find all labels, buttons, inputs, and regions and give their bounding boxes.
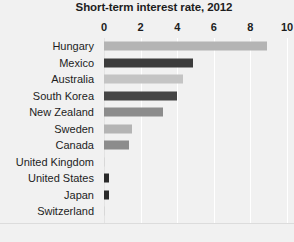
category-label: Japan [64, 189, 94, 201]
x-tick-label: 8 [247, 21, 253, 33]
category-label: United Kingdom [16, 156, 94, 168]
bar [104, 174, 109, 183]
category-label: Canada [55, 139, 94, 151]
x-tick-label: 4 [174, 21, 180, 33]
bar [104, 91, 177, 100]
bar [104, 58, 193, 67]
bar [104, 75, 183, 84]
x-tick-label: 2 [138, 21, 144, 33]
bar-row: Canada [0, 137, 294, 153]
bar [104, 108, 163, 117]
bar [104, 157, 105, 166]
bar-row: Japan [0, 187, 294, 203]
bar-row: New Zealand [0, 104, 294, 120]
bar-row: Switzerland [0, 203, 294, 219]
category-label: South Korea [33, 90, 94, 102]
x-tick-label: 6 [211, 21, 217, 33]
category-label: Switzerland [37, 205, 94, 217]
chart-title: Short-term interest rate, 2012 [0, 1, 294, 13]
bottom-divider [0, 223, 294, 224]
category-label: Hungary [52, 40, 94, 52]
x-axis-tick-labels: 0246810 [104, 21, 287, 35]
category-label: Australia [51, 73, 94, 85]
bar [104, 207, 105, 216]
bar-row: United Kingdom [0, 154, 294, 170]
bar-chart: Short-term interest rate, 2012 0246810 H… [0, 0, 294, 242]
category-label: New Zealand [29, 106, 94, 118]
category-label: Mexico [59, 57, 94, 69]
bar-row: United States [0, 170, 294, 186]
x-tick-label: 0 [101, 21, 107, 33]
bar [104, 190, 109, 199]
category-label: United States [28, 172, 94, 184]
bar [104, 42, 267, 51]
x-tick-label: 10 [281, 21, 293, 33]
bar-row: South Korea [0, 88, 294, 104]
bar [104, 141, 129, 150]
bar [104, 124, 132, 133]
bar-row: Hungary [0, 38, 294, 54]
bar-row: Australia [0, 71, 294, 87]
bar-row: Sweden [0, 121, 294, 137]
category-label: Sweden [54, 123, 94, 135]
bar-row: Mexico [0, 55, 294, 71]
